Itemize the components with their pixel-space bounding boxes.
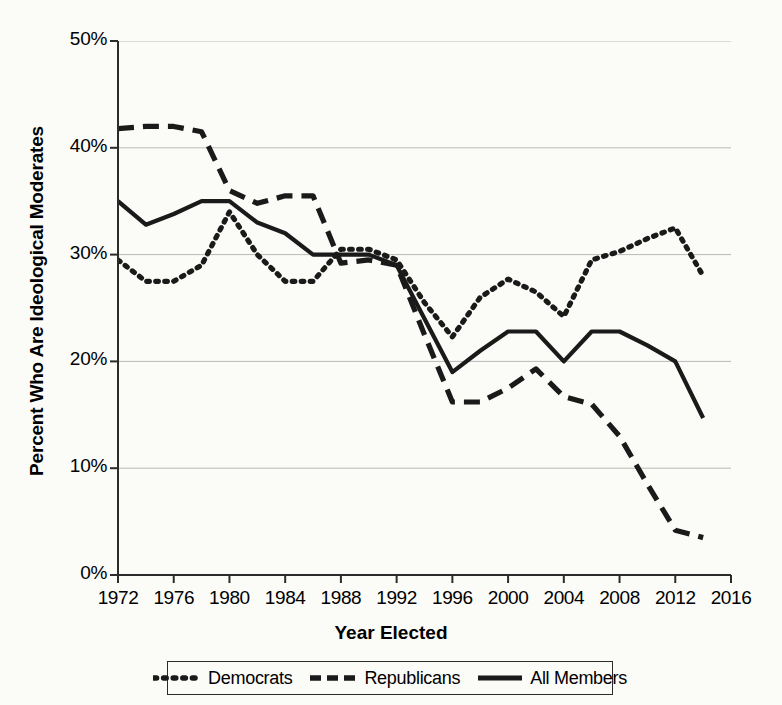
legend-item-republicans: Republicans [309, 668, 460, 689]
y-axis-tick-label: 50% [70, 28, 107, 50]
legend-label: Republicans [364, 668, 460, 689]
x-axis-tick-label: 1988 [321, 587, 362, 609]
plot-area [118, 41, 731, 575]
legend-swatch-dashed-icon [309, 672, 357, 684]
legend-item-democrats: Democrats [153, 668, 292, 689]
y-axis-tick-label: 40% [70, 135, 107, 157]
legend-swatch-solid-icon [477, 672, 523, 684]
series-line-democrats [118, 212, 703, 337]
series-line-all-members [118, 201, 703, 418]
x-axis-tick-label: 2008 [599, 587, 640, 609]
x-axis-tick-label: 1992 [376, 587, 417, 609]
x-axis-tick-label: 1980 [209, 587, 250, 609]
y-axis-tick-marks [110, 41, 118, 575]
data-series-layer [118, 126, 703, 537]
x-axis-tick-label: 1976 [153, 587, 194, 609]
y-axis-tick-label: 10% [70, 455, 107, 477]
legend-swatch-dotted-icon [153, 672, 201, 684]
x-axis-tick-marks [118, 575, 731, 583]
x-axis-tick-label: 2004 [543, 587, 584, 609]
x-axis-tick-label: 2000 [488, 587, 529, 609]
x-axis-tick-label: 2012 [655, 587, 696, 609]
chart-legend: DemocratsRepublicansAll Members [167, 661, 613, 695]
x-axis-title: Year Elected [0, 622, 782, 644]
x-axis-tick-label: 1972 [98, 587, 139, 609]
y-axis-tick-label: 0% [80, 562, 107, 584]
y-axis-tick-label: 20% [70, 348, 107, 370]
legend-item-all-members: All Members [477, 668, 627, 689]
y-axis-tick-label: 30% [70, 242, 107, 264]
y-axis-title: Percent Who Are Ideological Moderates [26, 21, 48, 581]
legend-label: All Members [530, 668, 627, 689]
legend-label: Democrats [208, 668, 292, 689]
x-axis-tick-label: 1984 [265, 587, 306, 609]
x-axis-tick-label: 2016 [711, 587, 752, 609]
chart-canvas [118, 41, 731, 575]
x-axis-tick-label: 1996 [432, 587, 473, 609]
chart-figure: Percent Who Are Ideological Moderates 0%… [0, 0, 782, 705]
